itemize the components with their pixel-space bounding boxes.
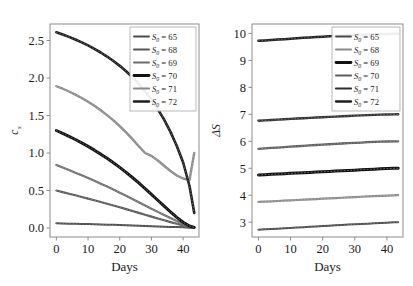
x-axis-label: Days [111, 259, 138, 274]
figure-container: 0102030400.00.51.01.52.02.5DayscsS0 = 65… [0, 0, 413, 286]
legend: S0 = 65S0 = 68S0 = 69S0 = 70S0 = 71S0 = … [130, 27, 196, 111]
y-tick-label: 1.0 [28, 146, 44, 160]
y-axis-label: ΔS [210, 124, 222, 138]
legend-label: S0 = 72 [354, 97, 379, 108]
legend-label: S0 = 70 [354, 71, 379, 82]
legend-label: S0 = 69 [354, 58, 379, 69]
y-tick-label: 4 [239, 189, 246, 203]
y-tick-label: 1.5 [28, 109, 44, 123]
data-series-line [258, 141, 398, 149]
legend-label: S0 = 68 [354, 45, 379, 56]
legend-label: S0 = 68 [152, 45, 177, 56]
legend-label: S0 = 71 [152, 84, 177, 95]
x-tick-label: 10 [82, 242, 95, 256]
svg-text:ΔS: ΔS [210, 124, 222, 138]
legend-label: S0 = 65 [152, 32, 177, 43]
legend: S0 = 65S0 = 68S0 = 69S0 = 70S0 = 71S0 = … [332, 27, 400, 111]
y-tick-label: 0.0 [28, 221, 44, 235]
y-tick-label: 2.5 [28, 34, 44, 48]
x-tick-label: 20 [113, 242, 126, 256]
chart-panel-left: 0102030400.00.51.01.52.02.5DayscsS0 = 65… [0, 0, 207, 286]
legend-label: S0 = 72 [152, 97, 177, 108]
data-series-marker-texture [258, 168, 398, 175]
x-tick-label: 40 [177, 242, 190, 256]
plot-area-right: 010203040345678910DaysΔSS0 = 65S0 = 68S0… [207, 0, 413, 286]
y-tick-label: 10 [233, 27, 246, 41]
y-tick-label: 0.5 [28, 184, 44, 198]
x-tick-label: 10 [284, 242, 297, 256]
y-tick-label: 5 [239, 162, 245, 176]
legend-label: S0 = 65 [354, 32, 379, 43]
y-tick-label: 9 [239, 54, 245, 68]
y-axis-label: cs [8, 126, 23, 135]
y-tick-label: 6 [239, 135, 245, 149]
x-tick-label: 40 [380, 242, 393, 256]
legend-label: S0 = 71 [354, 84, 379, 95]
legend-label: S0 = 70 [152, 71, 177, 82]
x-tick-label: 30 [145, 242, 158, 256]
x-tick-label: 20 [316, 242, 329, 256]
x-tick-label: 0 [53, 242, 59, 256]
x-tick-label: 30 [348, 242, 361, 256]
y-tick-label: 3 [239, 216, 245, 230]
svg-text:cs: cs [8, 126, 23, 135]
legend-label: S0 = 69 [152, 58, 177, 69]
y-tick-label: 7 [239, 108, 245, 122]
chart-panel-right: 010203040345678910DaysΔSS0 = 65S0 = 68S0… [207, 0, 413, 286]
x-axis-label: Days [314, 259, 341, 274]
data-series-line [56, 131, 194, 228]
x-tick-label: 0 [255, 242, 261, 256]
y-tick-label: 8 [239, 81, 245, 95]
data-series-line [258, 114, 398, 120]
y-tick-label: 2.0 [28, 71, 44, 85]
plot-area-left: 0102030400.00.51.01.52.02.5DayscsS0 = 65… [0, 0, 207, 286]
